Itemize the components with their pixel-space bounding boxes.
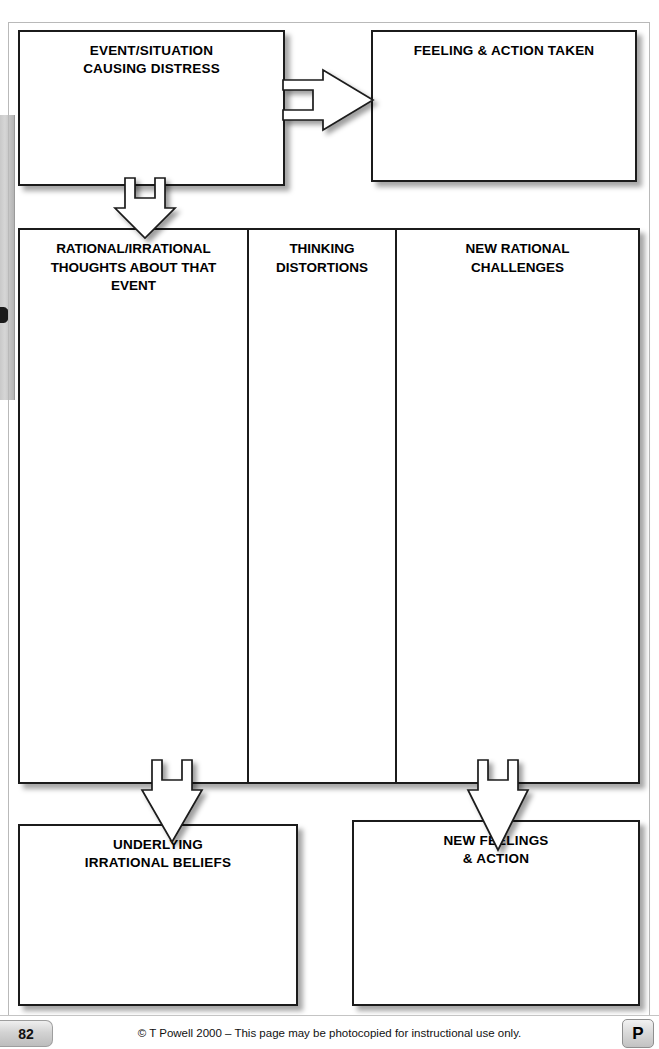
table-column-thinking-distortions[interactable]: THINKINGDISTORTIONS [249, 230, 397, 782]
box-event-situation-title: EVENT/SITUATIONCAUSING DISTRESS [20, 32, 283, 78]
box-underlying-irrational-beliefs-title: UNDERLYINGIRRATIONAL BELIEFS [20, 826, 296, 872]
publisher-mark-value: P [632, 1024, 643, 1044]
box-feeling-action[interactable]: FEELING & ACTION TAKEN [371, 30, 637, 182]
box-new-feelings-action[interactable]: NEW FEELINGS& ACTION [352, 820, 640, 1006]
table-column-new-rational-challenges[interactable]: NEW RATIONALCHALLENGES [397, 230, 638, 782]
box-event-situation[interactable]: EVENT/SITUATIONCAUSING DISTRESS [18, 30, 285, 186]
table-column-header: NEW RATIONALCHALLENGES [397, 230, 638, 277]
footer-copyright-text: © T Powell 2000 – This page may be photo… [0, 1020, 659, 1045]
publisher-mark-badge: P [622, 1019, 654, 1048]
table-column-rational-irrational-thoughts[interactable]: RATIONAL/IRRATIONALTHOUGHTS ABOUT THATEV… [20, 230, 249, 782]
footer-divider [0, 1015, 659, 1016]
page-footer: © T Powell 2000 – This page may be photo… [0, 1015, 659, 1049]
table-column-header: THINKINGDISTORTIONS [249, 230, 395, 277]
box-underlying-irrational-beliefs[interactable]: UNDERLYINGIRRATIONAL BELIEFS [18, 824, 298, 1006]
table-column-header: RATIONAL/IRRATIONALTHOUGHTS ABOUT THATEV… [20, 230, 247, 296]
thought-record-table: RATIONAL/IRRATIONALTHOUGHTS ABOUT THATEV… [18, 228, 640, 784]
box-new-feelings-action-title: NEW FEELINGS& ACTION [354, 822, 638, 868]
page-number-value: 82 [18, 1026, 34, 1042]
page-number-badge: 82 [0, 1020, 53, 1047]
box-feeling-action-title: FEELING & ACTION TAKEN [373, 32, 635, 60]
